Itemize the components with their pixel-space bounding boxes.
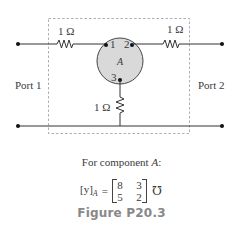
matrix-lhs: [y]A: [80, 183, 98, 198]
port-2-bottom-terminal: [220, 124, 224, 128]
terminal-1-dot: [104, 43, 108, 47]
component-a-label: A: [117, 57, 123, 67]
two-port-circuit: [0, 0, 243, 150]
resistor-vertical-label: 1 Ω: [94, 102, 110, 113]
port-2-label: Port 2: [198, 80, 225, 91]
component-intro: For component A:: [0, 156, 243, 168]
resistor-top-left-label: 1 Ω: [58, 26, 74, 37]
y-parameter-equation: [y]A = 8 3 5 2 ℧: [80, 177, 162, 205]
figure-title: Figure P20.3: [0, 206, 243, 220]
equals-sign: =: [102, 185, 108, 197]
matrix-cell: 5: [117, 191, 123, 203]
terminal-2-label: 2: [124, 39, 130, 50]
port-1-label: Port 1: [15, 80, 42, 91]
matrix-cell: 3: [136, 179, 142, 191]
port-1-bottom-terminal: [16, 124, 20, 128]
matrix-lhs-subscript: A: [93, 190, 98, 199]
matrix-row-2: 5 2: [117, 191, 142, 203]
matrix-cell: 8: [117, 179, 123, 191]
intro-colon: :: [158, 156, 161, 168]
port-1-top-terminal: [16, 42, 20, 46]
y-matrix: 8 3 5 2: [112, 179, 147, 203]
terminal-1-label: 1: [110, 39, 116, 50]
resistor-top-right-label: 1 Ω: [167, 24, 183, 35]
matrix-row-1: 8 3: [117, 179, 142, 191]
resistor-top-left: [57, 40, 73, 48]
mho-unit-symbol: ℧: [152, 184, 162, 199]
resistor-vertical: [116, 97, 124, 113]
terminal-3-label: 3: [111, 72, 117, 83]
intro-text: For component: [82, 156, 152, 168]
matrix-cell: 2: [136, 191, 142, 203]
matrix-lhs-symbol: [y]: [80, 183, 93, 195]
resistor-top-right: [163, 40, 179, 48]
port-2-top-terminal: [220, 42, 224, 46]
